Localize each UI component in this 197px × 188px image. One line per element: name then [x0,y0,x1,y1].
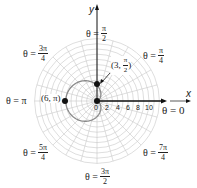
tick-2: 2 [105,104,109,111]
num: π [101,24,107,34]
num: 3π [100,167,110,177]
point-6-pi [62,98,68,104]
theta-eq: θ = [85,172,98,182]
point-3-pi-over-2 [94,81,100,87]
theta-eq: θ = [23,148,36,158]
den: 4 [41,153,45,162]
theta-eq: θ = [86,29,99,39]
den: 4 [161,153,165,162]
theta-eq: θ = [143,51,156,61]
theta-0-label: θ = 0 [162,105,184,116]
theta-pi-over-4-label: θ = π4 [143,46,164,65]
x-axis-label: x [186,88,191,99]
num: π [158,46,164,56]
x-axis-end-arrow-icon [186,99,191,103]
den: 2 [124,66,128,75]
num: 7π [158,143,168,153]
tick-0: 0 [94,104,98,111]
num: 5π [38,143,48,153]
point-3-pi-over-2-label: (3, π2 ) [111,56,131,75]
theta-pi-over-2-label: θ = π2 [86,24,107,43]
tick-4: 4 [116,104,120,111]
y-axis-arrow-icon [95,4,99,10]
tick-10: 10 [145,104,153,111]
den: 2 [103,177,107,186]
tick-8: 8 [136,104,140,111]
theta-eq: θ = [143,148,156,158]
theta-pi-label: θ = π [6,96,26,106]
den: 2 [102,34,106,43]
den: 4 [159,56,163,65]
x-axis-arrow-icon [161,99,167,104]
theta-7pi-over-4-label: θ = 7π4 [143,143,168,162]
point-6-pi-label: (6, π) [41,94,61,103]
theta-5pi-over-4-label: θ = 5π4 [23,143,48,162]
theta-3pi-over-4-label: θ = 3π4 [23,44,48,63]
pt-open: (3, [111,61,121,70]
theta-eq: θ = [23,49,36,59]
y-axis-label: y [89,4,94,15]
pt-close: ) [128,61,131,70]
num: 3π [38,44,48,54]
tick-6: 6 [126,104,130,111]
den: 4 [41,54,45,63]
theta-3pi-over-2-label: θ = 3π2 [85,167,110,186]
